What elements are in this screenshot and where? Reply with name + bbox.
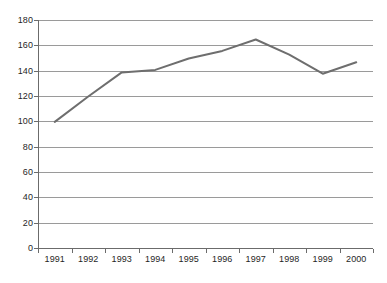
y-tick-label-80: 80 [6, 143, 33, 152]
data-series-line [55, 40, 357, 122]
x-tick-marks [39, 249, 374, 254]
x-tick-label-1998: 1998 [273, 254, 307, 270]
x-tick-label-1992: 1992 [72, 254, 106, 270]
y-tick-label-160: 160 [6, 41, 33, 50]
x-tick-label-1999: 1999 [306, 254, 340, 270]
y-tick-label-120: 120 [6, 92, 33, 101]
x-axis-tick-labels: 1991 1992 1993 1994 1995 1996 1997 1998 … [38, 254, 373, 270]
y-axis-tick-labels: 180 160 140 120 100 80 60 40 20 0 [5, 0, 33, 283]
line-chart: 180 160 140 120 100 80 60 40 20 0 1991 1… [0, 0, 387, 283]
x-tick-label-1995: 1995 [172, 254, 206, 270]
y-tick-label-0: 0 [6, 244, 33, 253]
y-tick-label-60: 60 [6, 168, 33, 177]
x-tick-label-1997: 1997 [239, 254, 273, 270]
x-tick-label-1994: 1994 [139, 254, 173, 270]
y-tick-label-180: 180 [6, 16, 33, 25]
y-tick-label-140: 140 [6, 67, 33, 76]
y-tick-label-20: 20 [6, 219, 33, 228]
x-tick-label-1993: 1993 [105, 254, 139, 270]
y-tick-label-100: 100 [6, 117, 33, 126]
x-tick-label-1996: 1996 [206, 254, 240, 270]
plot-area [0, 0, 387, 283]
x-tick-label-2000: 2000 [340, 254, 374, 270]
y-tick-label-40: 40 [6, 193, 33, 202]
x-tick-label-1991: 1991 [38, 254, 72, 270]
gridlines [38, 21, 373, 224]
y-tick-marks [34, 21, 38, 249]
